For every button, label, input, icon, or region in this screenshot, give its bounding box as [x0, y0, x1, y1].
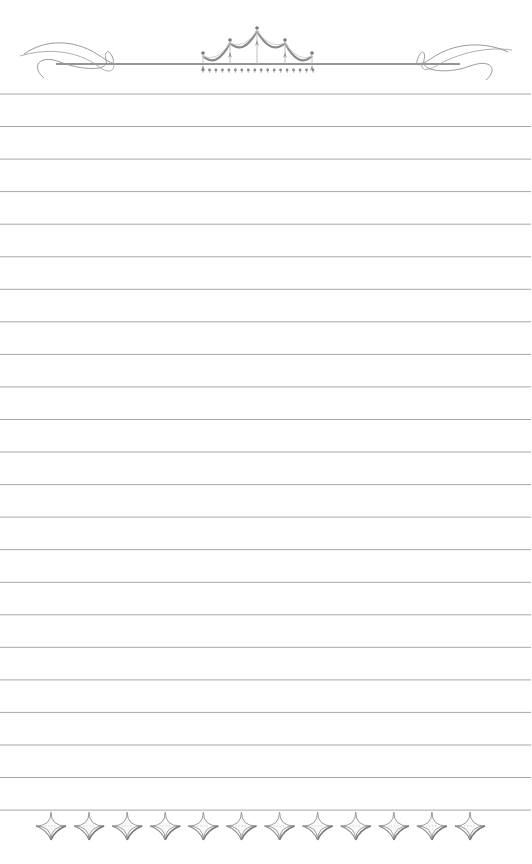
- lined-paper-page: [0, 0, 532, 864]
- stationery-artwork: [0, 0, 532, 864]
- header-flourish-icon: [20, 26, 512, 80]
- footer-star-border-icon: [36, 812, 485, 840]
- ruled-lines: [0, 94, 531, 810]
